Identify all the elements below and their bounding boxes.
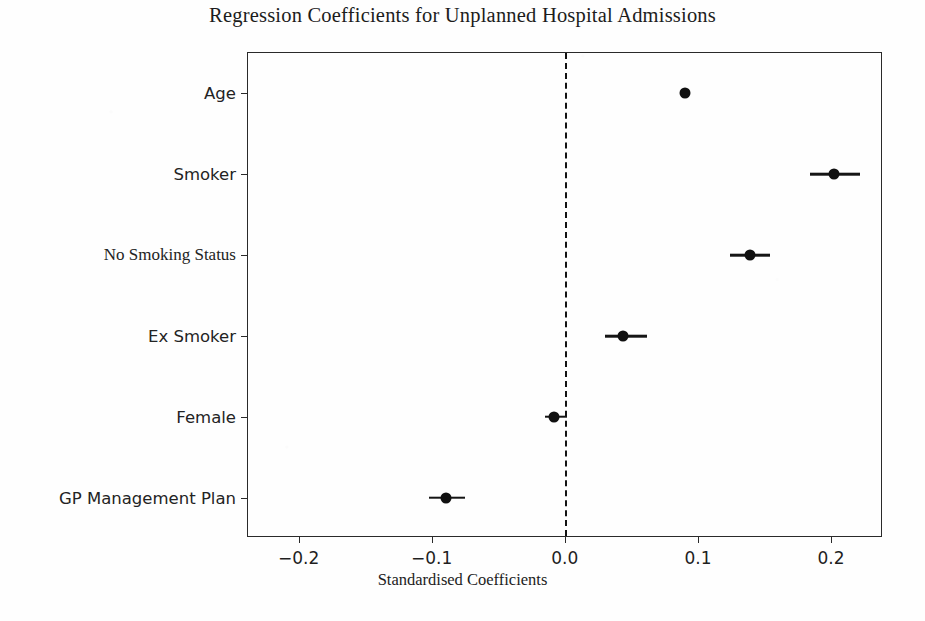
x-axis-tick-label: −0.2: [278, 548, 319, 568]
data-point-marker[interactable]: [549, 411, 560, 422]
y-axis-tick: [241, 255, 248, 256]
y-axis-tick: [241, 498, 248, 499]
data-point-marker[interactable]: [679, 88, 690, 99]
y-axis-tick: [241, 174, 248, 175]
y-axis-label: Female: [176, 407, 236, 426]
x-axis-tick: [698, 536, 699, 543]
chart-title: Regression Coefficients for Unplanned Ho…: [0, 4, 925, 27]
x-axis-tick-label: −0.1: [411, 548, 452, 568]
x-axis-tick: [831, 536, 832, 543]
y-axis-label: Smoker: [173, 165, 236, 184]
x-axis-tick-label: 0.1: [684, 548, 711, 568]
x-axis-tick-label: 0.2: [818, 548, 845, 568]
y-axis-label: GP Management Plan: [59, 488, 236, 507]
x-axis-tick-label: 0.0: [551, 548, 578, 568]
data-point-marker[interactable]: [828, 169, 839, 180]
data-point-marker[interactable]: [441, 492, 452, 503]
x-axis-tick: [565, 536, 566, 543]
data-point-marker[interactable]: [744, 250, 755, 261]
data-point-marker[interactable]: [618, 330, 629, 341]
chart-page: Regression Coefficients for Unplanned Ho…: [0, 0, 925, 621]
x-axis-tick: [299, 536, 300, 543]
plot-area: AgeSmokerNo Smoking StatusEx SmokerFemal…: [247, 52, 882, 537]
y-axis-label: Ex Smoker: [148, 326, 236, 345]
x-axis-tick: [432, 536, 433, 543]
y-axis-tick: [241, 336, 248, 337]
zero-reference-line: [565, 53, 567, 536]
x-axis-title: Standardised Coefficients: [0, 570, 925, 590]
y-axis-tick: [241, 93, 248, 94]
y-axis-label: Age: [204, 84, 236, 103]
y-axis-label: No Smoking Status: [104, 245, 236, 265]
plot-inner: AgeSmokerNo Smoking StatusEx SmokerFemal…: [248, 53, 881, 536]
y-axis-tick: [241, 417, 248, 418]
